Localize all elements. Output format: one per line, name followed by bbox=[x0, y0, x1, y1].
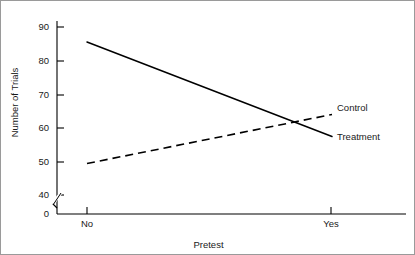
y-tick-label-80: 80 bbox=[23, 55, 49, 66]
series-label-control: Control bbox=[337, 102, 368, 113]
series-line-control bbox=[87, 115, 332, 164]
y-tick-label-0: 0 bbox=[23, 208, 49, 219]
y-tick-label-40: 40 bbox=[23, 189, 49, 200]
x-tick-label-yes: Yes bbox=[306, 218, 356, 229]
y-tick-label-50: 50 bbox=[23, 156, 49, 167]
y-axis-title: Number of Trials bbox=[1, 1, 25, 201]
y-tick-label-60: 60 bbox=[23, 122, 49, 133]
y-tick-label-70: 70 bbox=[23, 89, 49, 100]
y-tick-label-90: 90 bbox=[23, 21, 49, 32]
chart-figure: Number of Trials Pretest 90 80 70 60 50 … bbox=[0, 0, 415, 255]
x-tick-label-no: No bbox=[62, 218, 112, 229]
y-axis-title-text: Number of Trials bbox=[9, 43, 20, 163]
plot-area bbox=[1, 1, 415, 255]
x-axis-title: Pretest bbox=[1, 239, 415, 250]
series-label-treatment: Treatment bbox=[337, 131, 380, 142]
